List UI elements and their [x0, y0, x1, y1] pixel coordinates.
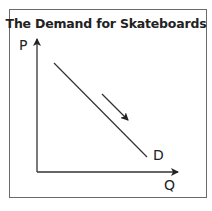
x-axis-label: Q	[164, 177, 175, 193]
demand-curve-label: D	[153, 147, 164, 163]
demand-curve	[54, 63, 147, 157]
demand-diagram	[0, 0, 212, 211]
y-axis-label: P	[19, 37, 27, 53]
